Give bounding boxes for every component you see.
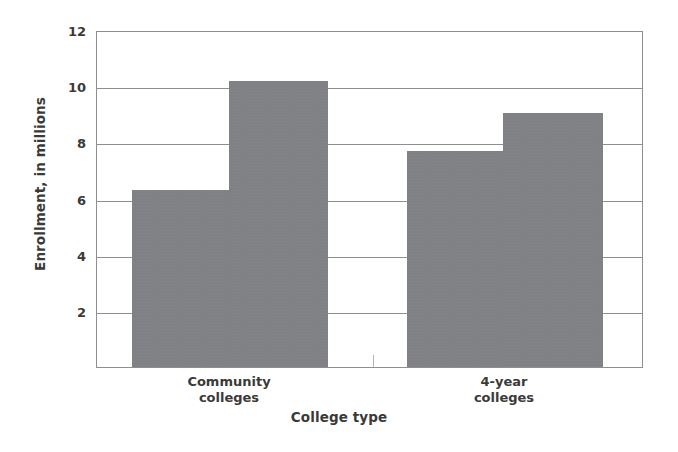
bar: [132, 190, 229, 367]
bar: [229, 81, 328, 367]
x-category-label: Community colleges: [144, 374, 314, 406]
bar-chart-figure: 24681012 Enrollment, in millions Communi…: [0, 0, 678, 452]
bar: [407, 151, 503, 367]
x-category-label: 4-year colleges: [419, 374, 589, 406]
bar: [503, 113, 603, 367]
y-tick-label: 12: [52, 25, 86, 38]
plot-area: [96, 31, 643, 368]
y-axis-tick-labels: 24681012: [52, 0, 86, 452]
x-axis-title: College type: [0, 409, 678, 425]
y-tick-label: 10: [52, 81, 86, 94]
group-separator-tick: [373, 355, 374, 367]
y-tick-label: 2: [52, 306, 86, 319]
gridline: [97, 88, 642, 89]
y-tick-label: 4: [52, 250, 86, 263]
y-tick-label: 8: [52, 137, 86, 150]
y-tick-label: 6: [52, 194, 86, 207]
y-axis-title: Enrollment, in millions: [32, 74, 48, 294]
